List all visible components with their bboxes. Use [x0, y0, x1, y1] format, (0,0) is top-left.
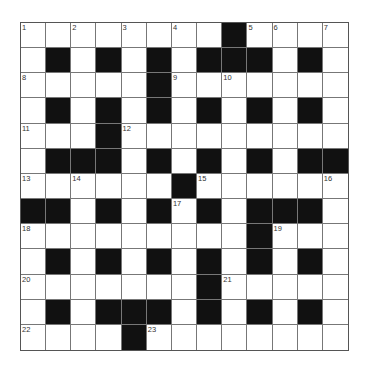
answer-cell[interactable]: [147, 174, 172, 199]
answer-cell[interactable]: [247, 73, 272, 98]
answer-cell[interactable]: [147, 275, 172, 300]
answer-cell[interactable]: [323, 199, 348, 224]
answer-cell[interactable]: [197, 124, 222, 149]
answer-cell[interactable]: [172, 224, 197, 249]
answer-cell[interactable]: [323, 73, 348, 98]
answer-cell[interactable]: [46, 224, 71, 249]
answer-cell[interactable]: 10: [222, 73, 247, 98]
answer-cell[interactable]: [96, 325, 121, 350]
answer-cell[interactable]: [122, 98, 147, 123]
answer-cell[interactable]: [222, 249, 247, 274]
answer-cell[interactable]: [172, 275, 197, 300]
answer-cell[interactable]: 16: [323, 174, 348, 199]
answer-cell[interactable]: [247, 275, 272, 300]
answer-cell[interactable]: [172, 149, 197, 174]
answer-cell[interactable]: [273, 124, 298, 149]
answer-cell[interactable]: [21, 300, 46, 325]
answer-cell[interactable]: 14: [71, 174, 96, 199]
answer-cell[interactable]: 8: [21, 73, 46, 98]
answer-cell[interactable]: 6: [273, 23, 298, 48]
answer-cell[interactable]: [46, 275, 71, 300]
answer-cell[interactable]: [222, 325, 247, 350]
answer-cell[interactable]: [298, 224, 323, 249]
answer-cell[interactable]: 15: [197, 174, 222, 199]
answer-cell[interactable]: [172, 300, 197, 325]
answer-cell[interactable]: [147, 224, 172, 249]
answer-cell[interactable]: [21, 48, 46, 73]
answer-cell[interactable]: [197, 23, 222, 48]
answer-cell[interactable]: [46, 23, 71, 48]
answer-cell[interactable]: [71, 275, 96, 300]
answer-cell[interactable]: 5: [247, 23, 272, 48]
answer-cell[interactable]: [96, 224, 121, 249]
answer-cell[interactable]: [197, 325, 222, 350]
answer-cell[interactable]: [298, 124, 323, 149]
answer-cell[interactable]: 19: [273, 224, 298, 249]
answer-cell[interactable]: [247, 174, 272, 199]
answer-cell[interactable]: [71, 73, 96, 98]
answer-cell[interactable]: 3: [122, 23, 147, 48]
answer-cell[interactable]: [323, 275, 348, 300]
answer-cell[interactable]: [46, 325, 71, 350]
answer-cell[interactable]: [122, 224, 147, 249]
answer-cell[interactable]: 22: [21, 325, 46, 350]
answer-cell[interactable]: [21, 149, 46, 174]
answer-cell[interactable]: [323, 325, 348, 350]
answer-cell[interactable]: [172, 325, 197, 350]
answer-cell[interactable]: [71, 325, 96, 350]
answer-cell[interactable]: [96, 275, 121, 300]
answer-cell[interactable]: 7: [323, 23, 348, 48]
answer-cell[interactable]: [197, 224, 222, 249]
answer-cell[interactable]: [96, 23, 121, 48]
answer-cell[interactable]: [122, 275, 147, 300]
answer-cell[interactable]: [197, 73, 222, 98]
answer-cell[interactable]: [71, 249, 96, 274]
answer-cell[interactable]: 13: [21, 174, 46, 199]
answer-cell[interactable]: [147, 23, 172, 48]
answer-cell[interactable]: 23: [147, 325, 172, 350]
answer-cell[interactable]: [222, 224, 247, 249]
answer-cell[interactable]: 2: [71, 23, 96, 48]
answer-cell[interactable]: [122, 73, 147, 98]
answer-cell[interactable]: [71, 300, 96, 325]
answer-cell[interactable]: [273, 174, 298, 199]
answer-cell[interactable]: 18: [21, 224, 46, 249]
answer-cell[interactable]: [96, 73, 121, 98]
answer-cell[interactable]: [298, 73, 323, 98]
answer-cell[interactable]: [71, 199, 96, 224]
answer-cell[interactable]: [71, 224, 96, 249]
answer-cell[interactable]: [273, 300, 298, 325]
answer-cell[interactable]: [46, 124, 71, 149]
answer-cell[interactable]: [222, 149, 247, 174]
answer-cell[interactable]: [323, 48, 348, 73]
answer-cell[interactable]: [222, 300, 247, 325]
answer-cell[interactable]: [273, 275, 298, 300]
answer-cell[interactable]: [21, 249, 46, 274]
answer-cell[interactable]: [273, 98, 298, 123]
answer-cell[interactable]: [172, 124, 197, 149]
answer-cell[interactable]: [172, 249, 197, 274]
answer-cell[interactable]: [298, 325, 323, 350]
answer-cell[interactable]: [273, 325, 298, 350]
answer-cell[interactable]: [247, 124, 272, 149]
answer-cell[interactable]: 21: [222, 275, 247, 300]
answer-cell[interactable]: 20: [21, 275, 46, 300]
answer-cell[interactable]: [71, 124, 96, 149]
answer-cell[interactable]: 17: [172, 199, 197, 224]
answer-cell[interactable]: [273, 73, 298, 98]
answer-cell[interactable]: [298, 23, 323, 48]
answer-cell[interactable]: 9: [172, 73, 197, 98]
answer-cell[interactable]: [122, 48, 147, 73]
answer-cell[interactable]: [323, 224, 348, 249]
answer-cell[interactable]: [247, 325, 272, 350]
answer-cell[interactable]: [298, 275, 323, 300]
answer-cell[interactable]: [71, 48, 96, 73]
answer-cell[interactable]: [122, 149, 147, 174]
answer-cell[interactable]: [273, 48, 298, 73]
answer-cell[interactable]: [46, 73, 71, 98]
answer-cell[interactable]: 12: [122, 124, 147, 149]
answer-cell[interactable]: [122, 174, 147, 199]
answer-cell[interactable]: 1: [21, 23, 46, 48]
answer-cell[interactable]: [122, 199, 147, 224]
answer-cell[interactable]: [46, 174, 71, 199]
